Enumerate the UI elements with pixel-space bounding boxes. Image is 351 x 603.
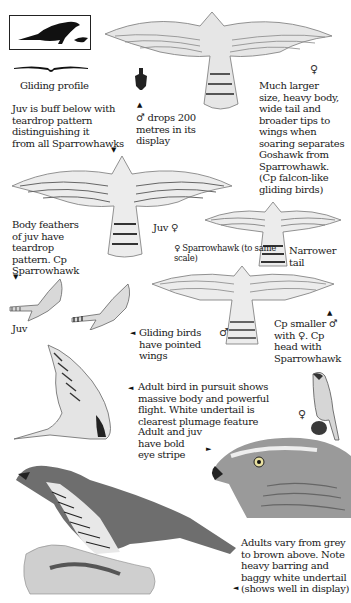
juv-buff-note: Juv is buff below with teardrop pattern …	[12, 103, 124, 149]
male-symbol: ♂	[219, 327, 229, 338]
gliding-adult-illustration	[70, 282, 132, 330]
adults-vary-note: Adults vary from grey to brown above. No…	[241, 537, 349, 595]
sparrowhawk-scale-label: ♀ Sparrowhawk (to same scale)	[174, 243, 276, 263]
juv-female-label: Juv ♀	[153, 222, 178, 233]
body-feathers-note: Body feathers of juv have teardrop patte…	[12, 219, 79, 277]
perched-female-illustration	[305, 370, 340, 442]
gliding-profile-label: Gliding profile	[20, 80, 89, 91]
left-arrow-icon: ◄	[130, 330, 135, 337]
left-arrow-icon: ◄	[128, 385, 133, 392]
silhouette-box	[9, 15, 91, 50]
left-arrow-icon: ◄	[233, 585, 238, 592]
juv-gliding-label: Juv	[12, 323, 27, 334]
perched-female-symbol: ♀	[298, 409, 306, 420]
adult-pursuit-note: Adult bird in pursuit shows massive body…	[138, 381, 269, 427]
goshawk-silhouette-icon	[10, 16, 90, 49]
gliding-profile-icon	[12, 62, 90, 76]
perched-goshawk-illustration	[10, 458, 238, 598]
male-drops-note: ♂ drops 200 metres in its display	[136, 112, 196, 147]
much-larger-note: Much larger size, heavy body, wide tail …	[259, 80, 344, 195]
up-arrow-icon: ▲	[327, 310, 332, 317]
gliding-birds-note: Gliding birds have pointed wings	[139, 327, 201, 362]
eye-stripe-note: Adult and juv have bold eye stripe	[138, 426, 202, 461]
pursuit-goshawk-illustration	[10, 343, 114, 445]
gliding-juvenile-illustration	[8, 277, 68, 322]
top-female-symbol: ♀	[310, 64, 318, 75]
cp-smaller-note: Cp smaller ♂ with ♀. Cp head with Sparro…	[274, 318, 341, 364]
